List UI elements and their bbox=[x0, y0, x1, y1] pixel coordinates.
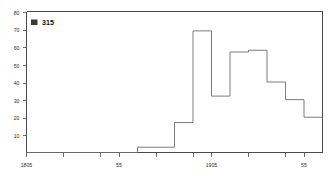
legend: 315 bbox=[31, 18, 54, 27]
x-tick-label-1955: 55 bbox=[301, 162, 307, 168]
y-tick-label-50: 50 bbox=[14, 63, 20, 69]
y-tick-30: 30 bbox=[14, 98, 27, 104]
y-tick-label-60: 60 bbox=[14, 45, 20, 51]
legend-label: 315 bbox=[42, 18, 54, 27]
y-tick-40: 40 bbox=[14, 80, 27, 86]
data-series-315 bbox=[27, 31, 323, 153]
step-chart: 10 20 30 40 50 60 bbox=[0, 0, 331, 178]
step-line-path bbox=[27, 31, 323, 153]
y-tick-label-40: 40 bbox=[14, 80, 20, 86]
x-tick-label-1855: 55 bbox=[116, 162, 122, 168]
y-tick-label-10: 10 bbox=[14, 133, 20, 139]
y-tick-10: 10 bbox=[14, 133, 27, 139]
y-tick-60: 60 bbox=[14, 45, 27, 51]
x-axis-ticks: 1805 55 1905 55 bbox=[21, 153, 307, 169]
y-tick-label-80: 80 bbox=[14, 10, 20, 16]
y-axis-ticks: 10 20 30 40 50 60 bbox=[14, 10, 27, 139]
chart-container: 10 20 30 40 50 60 bbox=[0, 0, 331, 178]
y-tick-label-30: 30 bbox=[14, 98, 20, 104]
legend-marker-swatch bbox=[31, 20, 38, 26]
y-tick-70: 70 bbox=[14, 27, 27, 33]
y-tick-80: 80 bbox=[14, 10, 27, 16]
y-tick-20: 20 bbox=[14, 115, 27, 121]
y-tick-50: 50 bbox=[14, 63, 27, 69]
y-tick-label-70: 70 bbox=[14, 27, 20, 33]
y-tick-label-20: 20 bbox=[14, 115, 20, 121]
x-tick-label-1805: 1805 bbox=[21, 162, 33, 168]
x-tick-label-1905: 1905 bbox=[206, 162, 218, 168]
